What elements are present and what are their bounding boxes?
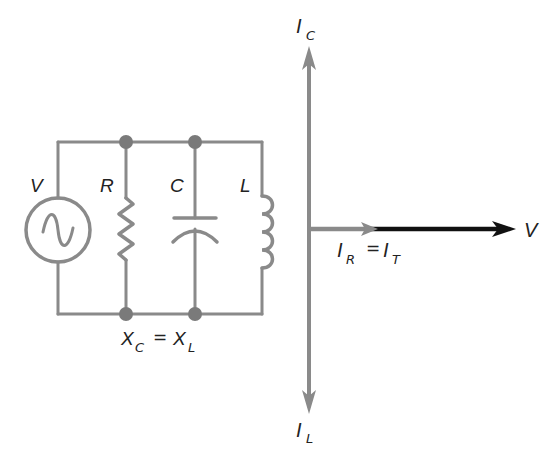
phasor-diagram	[302, 46, 516, 414]
ic-main: I	[296, 15, 302, 37]
il-sub: L	[306, 431, 313, 446]
it-main: I	[383, 239, 389, 261]
ir-it-label: I R = I T	[337, 238, 401, 267]
v-phasor-label: V	[524, 219, 539, 241]
il-main: I	[296, 419, 302, 441]
resistor-label: R	[100, 175, 114, 196]
ir-main: I	[337, 239, 343, 261]
xl-sub: L	[188, 340, 195, 355]
node-bottom-c	[188, 307, 202, 321]
ir-sub: R	[346, 252, 355, 267]
diagram-canvas: V R C L X C = X L I C I L V I R	[0, 0, 559, 464]
node-top-c	[188, 135, 202, 149]
inductor-coil-icon	[262, 196, 273, 268]
resistor-zigzag-icon	[119, 198, 133, 260]
node-top-r	[119, 135, 133, 149]
ic-label: I C	[296, 15, 316, 43]
xc-main: X	[120, 328, 135, 349]
sine-wave-icon	[43, 215, 73, 246]
junction-nodes	[119, 135, 202, 321]
ir-it-equals: =	[366, 238, 380, 258]
it-sub: T	[392, 252, 401, 267]
condition-equals: =	[153, 327, 167, 347]
ic-sub: C	[306, 28, 316, 43]
node-bottom-r	[119, 307, 133, 321]
source-label: V	[30, 175, 45, 196]
xl-main: X	[172, 328, 187, 349]
xc-sub: C	[135, 340, 145, 355]
capacitor-label: C	[170, 175, 184, 196]
inductor-label: L	[240, 175, 251, 196]
resonance-condition: X C = X L	[120, 327, 195, 355]
parallel-rlc-circuit	[26, 142, 273, 314]
il-label: I L	[296, 419, 313, 446]
